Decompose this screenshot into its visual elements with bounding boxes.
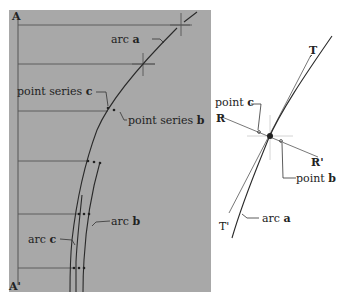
label-arc-a: arc a bbox=[111, 33, 140, 46]
label-a: A bbox=[11, 10, 21, 23]
label-point-series-b: point series b bbox=[128, 114, 205, 127]
right-panel: T point c R R' point b T' arc a bbox=[215, 36, 336, 238]
gray-panel-background bbox=[9, 10, 211, 292]
label-a-prime: A' bbox=[8, 280, 21, 293]
label-R-prime: R' bbox=[311, 156, 324, 169]
leader-point-b bbox=[282, 143, 296, 178]
label-point-series-c: point series c bbox=[17, 85, 93, 98]
leader-arc-a-right bbox=[242, 214, 259, 218]
diagram-canvas: A A' arc a point series c point series b… bbox=[0, 0, 349, 306]
label-point-b: point b bbox=[296, 172, 336, 185]
label-arc-b: arc b bbox=[111, 215, 140, 228]
label-point-c: point c bbox=[215, 96, 254, 109]
label-arc-a-right: arc a bbox=[262, 212, 291, 225]
label-T-prime: T' bbox=[219, 220, 229, 233]
center-point bbox=[267, 133, 273, 139]
label-R: R bbox=[216, 112, 226, 125]
label-T: T bbox=[309, 44, 318, 57]
left-panel: A A' arc a point series c point series b… bbox=[8, 10, 211, 293]
label-arc-c: arc c bbox=[28, 233, 56, 246]
arc-a-right bbox=[232, 36, 332, 238]
